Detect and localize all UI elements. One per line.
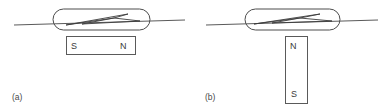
panel-caption-a: (a): [12, 92, 23, 102]
figure-container: S N (a) N S (b): [0, 0, 391, 112]
pole-label-north-b: N: [290, 41, 297, 51]
pole-label-south-b: S: [291, 89, 297, 99]
panel-b: N S (b): [205, 9, 378, 104]
diagram-canvas: S N (a) N S (b): [0, 0, 391, 112]
pole-label-south-a: S: [71, 41, 77, 51]
pole-label-north-a: N: [120, 41, 127, 51]
panel-a: S N (a): [12, 9, 185, 102]
panel-caption-b: (b): [205, 92, 216, 102]
